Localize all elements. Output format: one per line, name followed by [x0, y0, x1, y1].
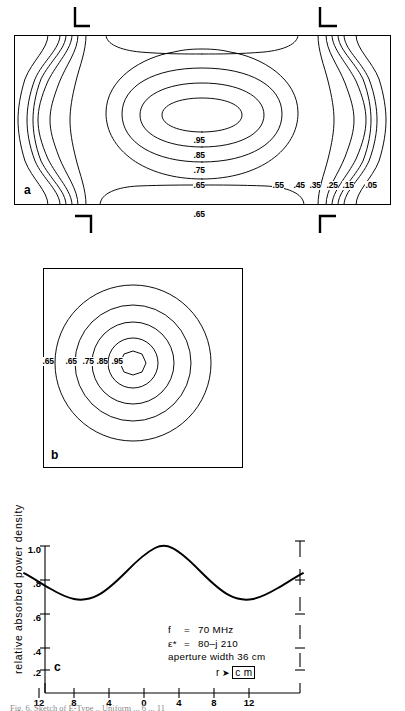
x-axis-unit: c m [232, 666, 255, 679]
annotation-permittivity-value: 80–j 210 [198, 638, 238, 649]
panel-a-letter: a [24, 183, 31, 197]
panel-b-contours [43, 268, 243, 468]
panel-c-line-plot: relative absorbed power density 1.0 .8 .… [0, 505, 405, 705]
annotation-frequency-value: 70 MHz [198, 624, 234, 635]
annotation-permittivity-equals: = [184, 637, 198, 651]
contour-label-a-35: .35 [309, 181, 321, 190]
contour-label-a-85: .85 [193, 151, 205, 160]
bracket-top-right-icon [320, 7, 337, 26]
bracket-bottom-left-icon [75, 216, 91, 233]
contour-label-a-55: .55 [272, 181, 284, 190]
arrow-right-icon: ➤ [220, 668, 232, 678]
annotation-aperture-width: aperture width 36 cm [168, 650, 265, 664]
panel-c-axes-and-curve [0, 505, 405, 705]
annotation-permittivity-symbol: ε* [168, 637, 184, 651]
contour-label-a-65-bottom: .65 [193, 210, 205, 219]
contour-label-a-95: .95 [193, 136, 205, 145]
panel-c-letter: c [54, 660, 61, 674]
contour-label-b-65: .65 [65, 357, 77, 366]
contour-label-b-95: .95 [111, 357, 123, 366]
panel-c-x-axis-label: r➤c m [216, 666, 255, 679]
bracket-top-left-icon [75, 7, 90, 26]
contour-label-b-85: .85 [96, 357, 108, 366]
figure-container: .95 .85 .75 .65 .65 .55 .45 .35 .25 .15 … [0, 0, 405, 711]
annotation-permittivity: ε*=80–j 210 [168, 637, 265, 651]
figure-caption: Fig. 6. Sketch of E-Type .. Uniform ... … [10, 703, 400, 711]
annotation-frequency-symbol: f [168, 623, 184, 637]
contour-label-a-15: .15 [342, 181, 354, 190]
panel-c-annotation-block: f=70 MHz ε*=80–j 210 aperture width 36 c… [168, 623, 265, 664]
contour-label-a-65: .65 [193, 181, 205, 190]
contour-label-a-25: .25 [326, 181, 338, 190]
panel-b-letter: b [51, 448, 58, 462]
contour-label-a-75: .75 [193, 166, 205, 175]
panel-b-contour-map: .65 .65 .75 .85 .95 b [43, 268, 243, 468]
panel-a-contour-map: .95 .85 .75 .65 .65 .55 .45 .35 .25 .15 … [14, 35, 391, 205]
contour-label-b-65-outer: .65 [42, 357, 54, 366]
annotation-frequency-equals: = [184, 623, 198, 637]
contour-label-b-75: .75 [82, 357, 94, 366]
contour-label-a-05: .05 [365, 181, 377, 190]
bracket-bottom-right-icon [320, 216, 336, 233]
annotation-frequency: f=70 MHz [168, 623, 265, 637]
contour-label-a-45: .45 [293, 181, 305, 190]
